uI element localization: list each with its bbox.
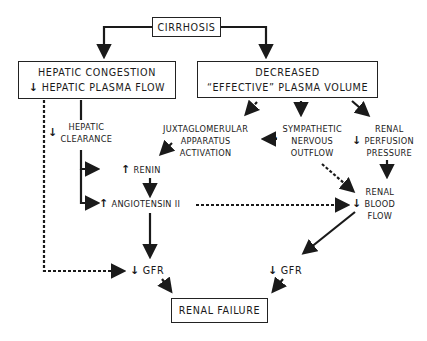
down-arrow-icon: ↓: [352, 135, 362, 147]
jga-line3: ACTIVATION: [180, 147, 232, 159]
angiotensin-label: ANGIOTENSIN II: [112, 198, 181, 210]
gfr-left-node: ↓ GFR: [130, 263, 164, 278]
hepatic-label: HEPATIC: [68, 121, 104, 133]
renal-blood-flow-node: ↓ RENAL BLOOD FLOW: [352, 186, 395, 222]
renal-perfusion-line3: PRESSURE: [367, 147, 412, 159]
decreased-plasma-volume-box: DECREASED “EFFECTIVE” PLASMA VOLUME: [197, 61, 378, 98]
gfr-right-node: ↓ GFR: [268, 263, 302, 278]
hepatic-congestion-label: HEPATIC CONGESTION: [38, 65, 156, 80]
cirrhosis-label: CIRRHOSIS: [157, 20, 215, 35]
gfr-right-label: GFR: [281, 263, 302, 278]
up-arrow-icon: ↑: [99, 198, 109, 210]
hepatic-clearance-node: ↓ HEPATIC CLEARANCE: [48, 121, 112, 145]
jga-line1: JUXTAGLOMERULAR: [163, 123, 248, 135]
angiotensin-node: ↑ ANGIOTENSIN II: [99, 198, 180, 210]
down-arrow-icon: ↓: [29, 80, 39, 95]
renal-blood-flow-line1: RENAL: [366, 186, 395, 198]
down-arrow-icon: ↓: [130, 263, 140, 278]
clearance-label: CLEARANCE: [61, 133, 113, 145]
up-arrow-icon: ↑: [270, 135, 280, 147]
connector-arrows: [0, 0, 427, 341]
sympathetic-outflow-node: ↑ SYMPATHETIC NERVOUS OUTFLOW: [270, 123, 342, 159]
sympathetic-line3: OUTFLOW: [291, 147, 334, 159]
down-arrow-icon: ↓: [268, 263, 278, 278]
hepatic-congestion-box: HEPATIC CONGESTION ↓ HEPATIC PLASMA FLOW: [18, 61, 176, 99]
jga-line2: APPARATUS: [181, 135, 231, 147]
hepatic-plasma-flow-label: HEPATIC PLASMA FLOW: [42, 80, 166, 95]
sympathetic-line1: SYMPATHETIC: [283, 123, 342, 135]
sympathetic-line2: NERVOUS: [291, 135, 333, 147]
gfr-left-label: GFR: [143, 263, 164, 278]
renal-failure-label: RENAL FAILURE: [179, 303, 260, 318]
cirrhosis-box: CIRRHOSIS: [152, 17, 221, 37]
down-arrow-icon: ↓: [352, 198, 362, 210]
renin-node: ↑ RENIN: [121, 164, 161, 176]
jga-activation-node: JUXTAGLOMERULAR APPARATUS ACTIVATION: [163, 123, 248, 159]
up-arrow-icon: ↑: [121, 164, 131, 176]
renal-blood-flow-line2: BLOOD: [365, 198, 396, 210]
renal-perfusion-line1: RENAL: [375, 123, 404, 135]
renal-blood-flow-line3: FLOW: [367, 210, 392, 222]
renal-perfusion-line2: PERFUSION: [365, 135, 414, 147]
effective-plasma-volume-label: “EFFECTIVE” PLASMA VOLUME: [207, 80, 368, 95]
decreased-label: DECREASED: [255, 65, 319, 80]
down-arrow-icon: ↓: [48, 127, 58, 139]
renal-perfusion-node: ↓ RENAL PERFUSION PRESSURE: [352, 123, 414, 159]
renal-failure-box: RENAL FAILURE: [171, 298, 268, 323]
renin-label: RENIN: [134, 164, 161, 176]
